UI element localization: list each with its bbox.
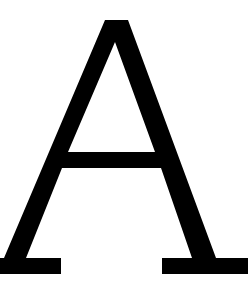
letter-a-glyph: A bbox=[0, 0, 248, 292]
glyph-outline bbox=[0, 20, 248, 274]
letter-a-icon bbox=[0, 0, 248, 292]
